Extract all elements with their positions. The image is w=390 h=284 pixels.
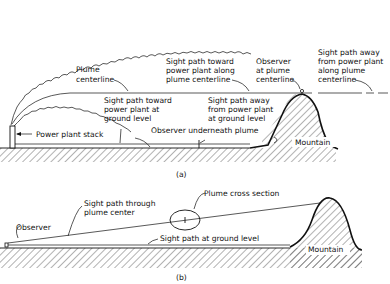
observer-b-marker: [5, 243, 8, 247]
label-plume-cross-section: Plume cross section: [204, 189, 280, 198]
label-observer-b: Observer: [16, 223, 52, 232]
caption-a: (a): [176, 170, 187, 179]
label-sight-through-center: Sight path through plume center: [84, 199, 158, 217]
leader-sight-toward-centerline: [232, 80, 249, 91]
plume-ground-touch: [135, 138, 150, 147]
leader-sight-through-center: [68, 206, 82, 236]
ground-hatch-a: [0, 148, 268, 162]
leader-sight-away-centerline: [355, 80, 372, 91]
observer-at-centerline-marker: [300, 89, 303, 92]
label-sight-toward-ground: Sight path toward power plant at ground …: [104, 96, 174, 123]
label-sight-away-centerline: Sight path away from power plant along p…: [318, 48, 386, 84]
label-plume-centerline: Plume centerline: [76, 65, 114, 84]
power-plant-stack: [10, 126, 15, 148]
mountain-a: [262, 94, 336, 162]
label-mountain-a: Mountain: [295, 138, 331, 147]
label-sight-toward-centerline: Sight path toward power plant along plum…: [166, 57, 237, 84]
arrowhead-stack: [16, 132, 21, 136]
caption-b: (b): [176, 273, 187, 282]
leader-sight-ground-b: [148, 239, 158, 244]
panel-a: Plume centerline Sight path toward power…: [0, 48, 388, 179]
label-sight-away-ground: Sight path away from power plant at grou…: [208, 96, 276, 123]
leader-sight-toward-ground: [120, 129, 121, 143]
panel-b: Observer Sight path through plume center…: [0, 189, 362, 282]
label-sight-ground-b: Sight path at ground level: [160, 234, 259, 243]
label-observer-underneath: Observer underneath plume: [151, 126, 259, 135]
leader-observer-underneath: [200, 140, 205, 143]
leader-plume-centerline: [114, 80, 128, 91]
label-observer-at-centerline: Observer at plume centerline: [256, 57, 294, 84]
label-power-plant-stack: Power plant stack: [36, 130, 104, 139]
label-mountain-b: Mountain: [308, 245, 344, 254]
plume-visibility-diagram: Plume centerline Sight path toward power…: [0, 0, 390, 284]
